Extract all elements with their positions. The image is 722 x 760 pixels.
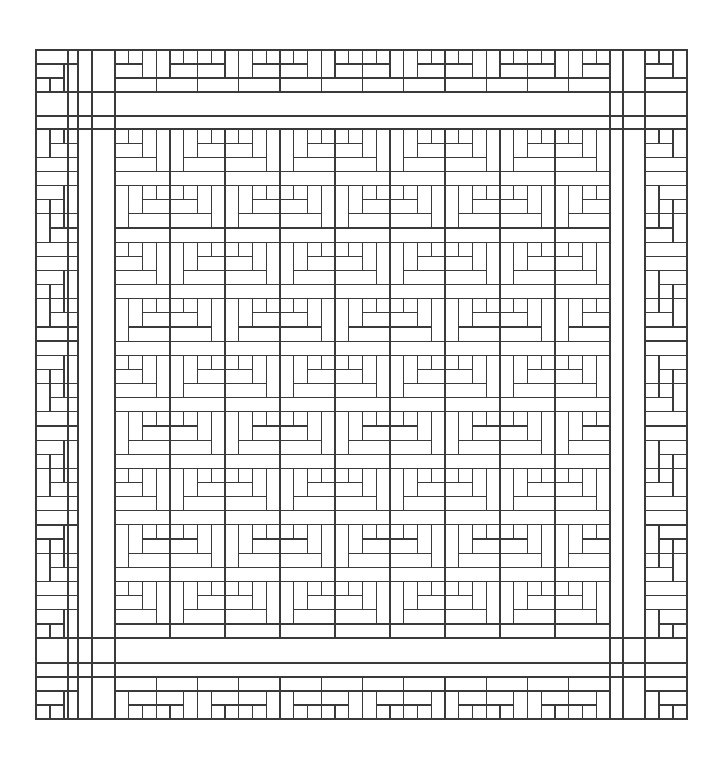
log-cabin-block: [569, 677, 610, 719]
log-cabin-block: [280, 50, 321, 92]
log-cabin-block: [36, 299, 78, 341]
log-cabin-block: [36, 341, 78, 383]
log-cabin-block: [36, 171, 78, 213]
log-cabin-block: [36, 553, 78, 595]
log-cabin-block: [645, 553, 687, 595]
log-cabin-block: [445, 50, 486, 92]
log-cabin-block: [280, 677, 321, 719]
log-cabin-block: [36, 468, 78, 510]
log-cabin-block: [36, 256, 78, 298]
log-cabin-block: [321, 50, 362, 92]
log-cabin-block: [569, 50, 610, 92]
center-blocks: [115, 129, 610, 638]
log-cabin-block: [645, 426, 687, 468]
log-cabin-block: [36, 129, 78, 171]
border-blocks: [36, 50, 687, 719]
log-cabin-block: [115, 677, 156, 719]
log-cabin-block: [115, 50, 156, 92]
log-cabin-block: [239, 677, 280, 719]
log-cabin-block: [36, 511, 78, 553]
log-cabin-block: [198, 50, 239, 92]
quilt-diagram: [0, 0, 722, 760]
log-cabin-block: [486, 50, 527, 92]
log-cabin-block: [36, 384, 78, 426]
log-cabin-block: [36, 596, 78, 638]
log-cabin-block: [528, 50, 569, 92]
log-cabin-block: [198, 677, 239, 719]
log-cabin-block: [36, 677, 78, 719]
log-cabin-block: [156, 50, 197, 92]
log-cabin-block: [404, 50, 445, 92]
log-cabin-block: [645, 129, 687, 171]
log-cabin-block: [645, 341, 687, 383]
log-cabin-block: [645, 256, 687, 298]
log-cabin-block: [363, 677, 404, 719]
log-cabin-block: [445, 677, 486, 719]
log-cabin-block: [645, 299, 687, 341]
log-cabin-block: [645, 468, 687, 510]
log-cabin-block: [645, 596, 687, 638]
corner-blocks: [36, 50, 687, 719]
log-cabin-block: [486, 677, 527, 719]
log-cabin-block: [645, 677, 687, 719]
log-cabin-block: [239, 50, 280, 92]
log-cabin-block: [404, 677, 445, 719]
log-cabin-block: [645, 511, 687, 553]
log-cabin-block: [645, 171, 687, 213]
log-cabin-block: [36, 214, 78, 256]
log-cabin-block: [528, 677, 569, 719]
outer-border: [36, 50, 687, 719]
log-cabin-block: [645, 384, 687, 426]
log-cabin-block: [156, 677, 197, 719]
outer-frame: [36, 50, 687, 719]
log-cabin-block: [321, 677, 362, 719]
log-cabin-block: [363, 50, 404, 92]
log-cabin-block: [36, 426, 78, 468]
log-cabin-block: [36, 50, 78, 92]
log-cabin-block: [645, 50, 687, 92]
log-cabin-block: [645, 214, 687, 256]
